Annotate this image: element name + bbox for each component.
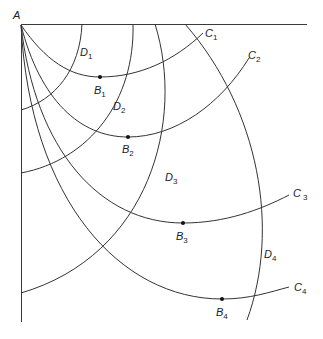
point-b2 xyxy=(126,135,130,139)
label-d3: D3 xyxy=(165,171,178,186)
label-c1: C1 xyxy=(205,27,218,42)
label-b4: B4 xyxy=(216,306,228,321)
point-b4 xyxy=(220,297,224,301)
label-b1: B1 xyxy=(94,84,106,99)
label-c3: C3 xyxy=(293,187,308,202)
geometric-diagram: A C1 C2 C3 C4 B1 B2 B3 B4 D1 D2 D3 D4 xyxy=(0,0,323,339)
arc-d3 xyxy=(21,24,165,293)
arc-d4 xyxy=(185,24,262,320)
label-b3: B3 xyxy=(176,230,188,245)
point-b3 xyxy=(181,221,185,225)
label-c4: C4 xyxy=(294,281,307,296)
point-b1 xyxy=(98,75,102,79)
label-b2: B2 xyxy=(122,143,134,158)
label-c2: C2 xyxy=(248,49,261,64)
label-d1: D1 xyxy=(80,46,93,61)
label-d2: D2 xyxy=(113,100,126,115)
curve-c1 xyxy=(21,25,203,77)
label-d4: D4 xyxy=(264,248,277,263)
label-a: A xyxy=(12,9,20,21)
